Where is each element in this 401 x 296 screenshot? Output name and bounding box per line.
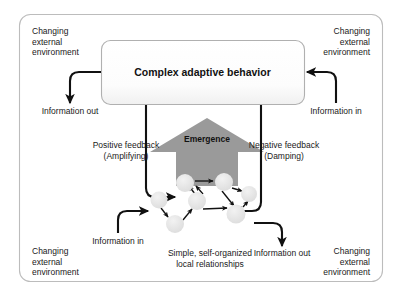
information-out-top-label: Information out — [28, 106, 112, 117]
network-node — [188, 192, 206, 210]
diagram-canvas: Complex adaptive behavior Emergence Chan… — [0, 0, 401, 296]
information-in-bottom-label: Information in — [76, 236, 160, 247]
emergence-label: Emergence — [176, 134, 238, 144]
corner-label-top-right: Changing external environment — [280, 26, 370, 58]
network-node — [215, 173, 233, 191]
network-caption: Simple, self-organized local relationshi… — [150, 248, 270, 269]
positive-feedback-label: Positive feedback (Amplifying) — [74, 140, 178, 161]
network-node — [166, 215, 184, 233]
corner-label-bottom-left: Changing external environment — [32, 246, 79, 278]
network-node — [151, 192, 168, 209]
network-node — [227, 205, 246, 224]
negative-feedback-label: Negative feedback (Damping) — [230, 140, 338, 161]
page-title: Complex adaptive behavior — [101, 66, 304, 78]
information-in-top-label: Information in — [294, 106, 378, 117]
network-node — [241, 186, 257, 202]
corner-label-top-left: Changing external environment — [32, 26, 79, 58]
network-node — [176, 174, 194, 192]
